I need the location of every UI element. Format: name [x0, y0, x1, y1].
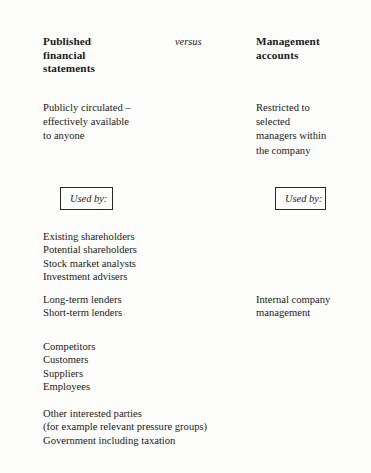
list-item: Employees: [43, 380, 193, 393]
list-item: Long-term lenders: [43, 293, 193, 306]
figure-frame: Published financial statements versus Ma…: [20, 17, 351, 457]
list-item: Government including taxation: [43, 434, 263, 447]
right-heading-line-1: Management: [256, 35, 351, 49]
left-availability-line-1: Publicly circulated –: [43, 101, 193, 115]
list-item: Competitors: [43, 340, 193, 353]
scanned-page: Published financial statements versus Ma…: [0, 0, 371, 473]
list-item: Suppliers: [43, 367, 193, 380]
used-by-box-left: Used by:: [60, 187, 113, 210]
list-item: Internal company: [256, 293, 351, 306]
left-heading-line-3: statements: [43, 62, 193, 76]
right-availability-line-4: the company: [256, 144, 351, 158]
left-users-group-4: Other interested parties (for example re…: [43, 407, 263, 447]
left-heading-line-2: financial: [43, 49, 193, 63]
list-item: (for example relevant pressure groups): [43, 420, 263, 433]
list-item: Investment advisers: [43, 270, 193, 283]
left-availability-text: Publicly circulated – effectively availa…: [43, 101, 193, 144]
list-item: Short-term lenders: [43, 306, 193, 319]
list-item: management: [256, 306, 351, 319]
left-users-group-1: Existing shareholders Potential sharehol…: [43, 230, 193, 284]
right-availability-line-1: Restricted to: [256, 101, 351, 115]
used-by-box-right: Used by:: [275, 187, 326, 210]
left-availability-line-2: effectively available: [43, 115, 193, 129]
right-column-heading: Management accounts: [256, 35, 351, 62]
right-availability-line-2: selected: [256, 115, 351, 129]
list-item: Existing shareholders: [43, 230, 193, 243]
list-item: Other interested parties: [43, 407, 263, 420]
left-column-heading: Published financial statements: [43, 35, 193, 76]
left-heading-line-1: Published: [43, 35, 193, 49]
right-heading-line-2: accounts: [256, 49, 351, 63]
list-item: Customers: [43, 353, 193, 366]
right-availability-line-3: managers within: [256, 129, 351, 143]
versus-label: versus: [175, 35, 250, 49]
list-item: Stock market analysts: [43, 257, 193, 270]
left-availability-line-3: to anyone: [43, 129, 193, 143]
list-item: Potential shareholders: [43, 243, 193, 256]
right-users-group-2: Internal company management: [256, 293, 351, 320]
left-users-group-3: Competitors Customers Suppliers Employee…: [43, 340, 193, 394]
left-users-group-2: Long-term lenders Short-term lenders: [43, 293, 193, 320]
right-availability-text: Restricted to selected managers within t…: [256, 101, 351, 158]
